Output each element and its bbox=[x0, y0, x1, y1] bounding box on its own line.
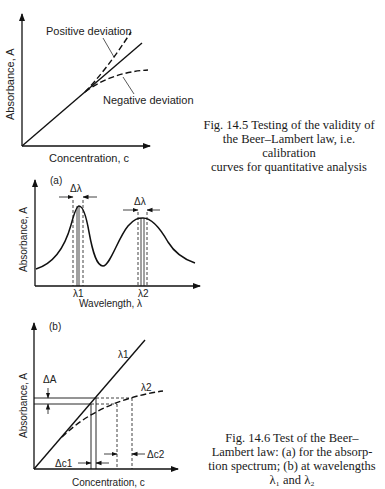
x-axis-label: Wavelength, λ bbox=[79, 298, 142, 309]
x-axis-label: Concentration, c bbox=[72, 477, 145, 488]
positive-deviation-label: Positive deviation bbox=[46, 25, 132, 37]
lambda-1-curve-label: λ1 bbox=[118, 349, 129, 360]
fig-14-6-caption: Fig. 14.6 Test of the Beer– Lambert law:… bbox=[206, 431, 378, 487]
panel-b-tag: (b) bbox=[49, 321, 61, 332]
delta-c1-label: Δc1 bbox=[55, 458, 73, 469]
fig-14-6a-chart bbox=[35, 180, 200, 286]
delta-a-label: ΔA bbox=[43, 374, 57, 385]
delta-lambda-2-label: Δλ bbox=[134, 196, 146, 207]
lambda-2-curve-label: λ2 bbox=[141, 382, 152, 393]
fig-14-5-caption: Fig. 14.5 Testing of the validity of the… bbox=[196, 118, 382, 174]
delta-c2-label: Δc2 bbox=[147, 449, 165, 460]
y-axis-label: Absorbance, A bbox=[18, 373, 29, 438]
panel-a-tag: (a) bbox=[50, 175, 62, 186]
negative-leader bbox=[123, 77, 134, 94]
figure-canvas: Positive deviation Negative deviation Ab… bbox=[0, 0, 385, 489]
y-axis-label: Absorbance, A bbox=[18, 207, 29, 272]
y-axis-label: Absorbance, A bbox=[4, 48, 16, 120]
delta-lambda-1-label: Δλ bbox=[70, 183, 82, 194]
fig-14-6b-chart bbox=[34, 323, 178, 469]
negative-deviation-label: Negative deviation bbox=[103, 94, 194, 106]
positive-deviation-curve bbox=[85, 32, 131, 92]
positive-leader bbox=[103, 38, 114, 57]
spectrum-curve bbox=[36, 206, 195, 269]
x-axis-label: Concentration, c bbox=[49, 152, 130, 164]
